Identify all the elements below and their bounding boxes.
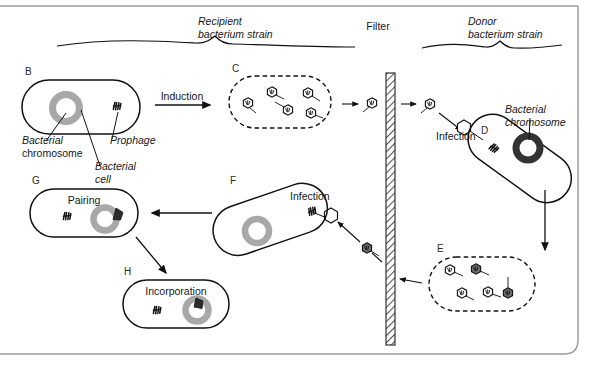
bacterial-chromosome-label-line2: chromosome [22, 147, 83, 159]
panel-f-chromosome [245, 219, 269, 243]
donor-strain-label-line1: Donor [468, 15, 497, 27]
panel-b-chromosome [53, 95, 80, 122]
figure-frame [0, 6, 578, 354]
bacterial-chromosome-label-line1: Bacterial [22, 134, 64, 146]
panel-letter-h: H [124, 266, 131, 277]
filter-label: Filter [366, 20, 390, 32]
donor-strain-label-line2: bacterium strain [468, 28, 543, 40]
donor-chromosome-label-line1: Bacterial [505, 103, 547, 115]
filter-membrane [386, 73, 395, 345]
donor-chromosome-label-line2: chromosome [505, 116, 566, 128]
figure-canvas: Recipient bacterium strain Filter Donor … [0, 0, 598, 369]
panel-h-prophage-icon [153, 306, 161, 313]
transducing-particle [362, 243, 379, 256]
recipient-strain-label-line2: bacterium strain [198, 28, 273, 40]
panel-letter-d: D [481, 125, 488, 136]
panel-g-prophage-icon [63, 212, 71, 219]
bacterial-cell-label-line1: Bacterial [95, 160, 137, 172]
recipient-strain-label-line1: Recipient [198, 15, 243, 27]
arrow-e-to-filter [400, 279, 422, 283]
infection-arrow-recipient [338, 222, 360, 242]
panel-c-phages [243, 87, 323, 118]
prophage-label: Prophage [110, 134, 156, 146]
bacterial-cell-label-line2: cell [95, 173, 111, 185]
panel-b-prophage-icon [113, 102, 121, 109]
free-phage-left [363, 98, 377, 112]
free-phage-right [421, 99, 435, 113]
panel-letter-f: F [230, 175, 236, 186]
leader-cell-b [81, 110, 100, 166]
panel-h-caption: Incorporation [145, 285, 206, 297]
panel-e-cell [429, 257, 535, 311]
induction-label: Induction [161, 90, 204, 102]
panel-f-prophage-icon [307, 206, 317, 216]
infection-label-left: Infection [290, 190, 330, 202]
panel-e-phages [445, 264, 512, 300]
panel-letter-b: B [25, 66, 32, 77]
panel-letter-c: C [232, 63, 239, 74]
panel-d-chromosome [516, 136, 540, 160]
panel-g-caption: Pairing [68, 194, 101, 206]
donor-brace [422, 41, 562, 48]
infection-label-right: Infection [436, 130, 476, 142]
panel-d-prophage-icon [488, 143, 499, 154]
panel-letter-e: E [437, 243, 444, 254]
transduction-diagram: Recipient bacterium strain Filter Donor … [0, 0, 598, 369]
arrow-g-to-h [136, 237, 166, 273]
panel-letter-g: G [32, 175, 40, 186]
